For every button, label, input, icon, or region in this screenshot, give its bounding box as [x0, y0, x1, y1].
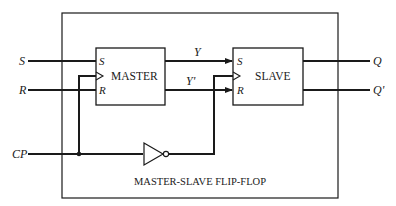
y-label: Y [194, 45, 202, 59]
master-slave-flip-flop-diagram: S R MASTER S R SLAVE S R CP [0, 0, 396, 206]
master-clock-wire [79, 76, 96, 154]
inverter-bubble [163, 151, 168, 156]
diagram-title: MASTER-SLAVE FLIP-FLOP [134, 176, 266, 187]
slave-clock-wire [169, 76, 233, 154]
slave-r-pin-label: R [236, 84, 244, 96]
master-r-pin-label: R [98, 84, 106, 96]
input-r-label: R [18, 83, 27, 97]
master-label: MASTER [111, 70, 158, 82]
slave-block: S R SLAVE [233, 48, 303, 105]
output-q-prime-label: Q' [373, 83, 385, 97]
output-q-label: Q [373, 54, 382, 68]
y-prime-label: Y' [186, 74, 196, 88]
input-cp-label: CP [12, 147, 28, 161]
inverter-gate [144, 143, 169, 165]
slave-label: SLAVE [255, 70, 291, 82]
master-block: S R MASTER [96, 48, 165, 105]
slave-s-pin-label: S [237, 55, 243, 67]
master-s-pin-label: S [99, 55, 105, 67]
input-s-label: S [19, 54, 25, 68]
